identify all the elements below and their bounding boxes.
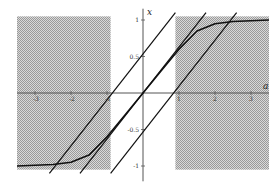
figure: -3-2-112310.5-0.5-1ax	[0, 0, 280, 183]
y-tick-label: 1	[135, 16, 139, 23]
y-tick-label: 0.5	[129, 53, 139, 60]
x-tick-label: -2	[69, 95, 75, 102]
x-tick-label: 3	[249, 95, 253, 102]
x-tick-label: 1	[177, 95, 181, 102]
x-tick-label: -1	[105, 95, 111, 102]
y-axis-label: x	[147, 7, 152, 17]
x-tick-label: -3	[33, 95, 39, 102]
x-tick-label: 2	[213, 95, 217, 102]
y-tick-label: -0.5	[127, 126, 139, 133]
y-tick-label: -1	[133, 162, 139, 169]
plot-area: -3-2-112310.5-0.5-1ax	[0, 0, 280, 183]
x-axis-label: a	[263, 81, 268, 91]
